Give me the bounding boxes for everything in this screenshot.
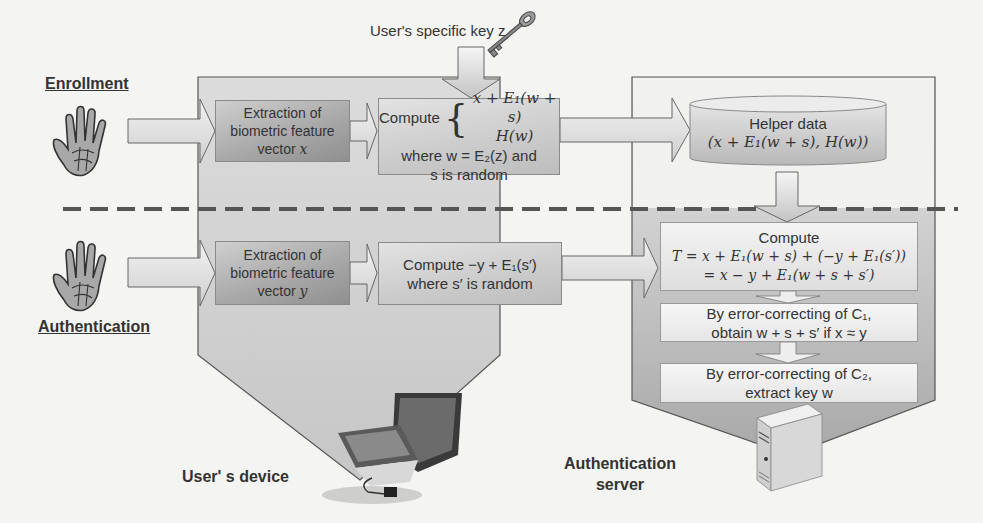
- c1-step-box: By error-correcting of C₁, obtain w + s …: [660, 303, 918, 342]
- enrollment-label: Enrollment: [45, 75, 129, 93]
- c2-step-box: By error-correcting of C₂, extract key w: [660, 363, 918, 403]
- compute-auth-line2: where s′ is random: [407, 274, 532, 293]
- extraction-line2: biometric feature: [230, 264, 334, 282]
- helper-data-label: Helper data (x + E₁(w + s), H(w)): [690, 114, 886, 152]
- compute-box-enroll: Compute { x + E₁(w + s) H(w) where w = E…: [378, 98, 560, 175]
- compute-prefix: Compute: [379, 108, 440, 127]
- helper-data-title: Helper data: [690, 114, 886, 133]
- compute-t-line2: = x − y + E₁(w + s + s′): [704, 266, 875, 285]
- c1-line1: By error-correcting of C₁,: [706, 304, 871, 323]
- server-tower-icon: [757, 404, 822, 491]
- compute-t-title: Compute: [759, 228, 820, 247]
- arrow-hand-to-extraction-enroll: [128, 99, 215, 163]
- compute-random-line: s is random: [430, 165, 508, 184]
- compute-case-2: H(w): [496, 127, 534, 146]
- compute-t-line1: T = x + E₁(w + s) + (−y + E₁(s′)): [672, 247, 906, 266]
- server-caption: Authentication server: [545, 453, 695, 495]
- extraction-line3: vector x: [258, 140, 308, 158]
- compute-case-1: x + E₁(w + s): [470, 89, 559, 127]
- extraction-line1: Extraction of: [244, 104, 322, 122]
- arrow-compute-to-server-auth: [562, 238, 658, 298]
- user-key-label: User's specific key z: [370, 22, 505, 39]
- compute-auth-line1: Compute −y + E₁(s′): [403, 255, 537, 274]
- extraction-box-enroll: Extraction of biometric feature vector x: [215, 100, 350, 162]
- arrow-hand-to-extraction-auth: [128, 240, 215, 306]
- user-device-caption: User' s device: [182, 466, 289, 487]
- compute-where-line: where w = E₂(z) and: [401, 146, 536, 165]
- extraction-box-auth: Extraction of biometric feature vector y: [215, 241, 350, 305]
- c1-line2: obtain w + s + s′ if x ≈ y: [711, 323, 866, 342]
- extraction-line3: vector y: [258, 282, 308, 300]
- hand-icon-auth: [53, 242, 105, 311]
- compute-box-auth: Compute −y + E₁(s′) where s′ is random: [378, 242, 562, 305]
- c2-line1: By error-correcting of C₂,: [706, 364, 872, 383]
- hand-icon-enroll: [53, 107, 105, 176]
- compute-t-box: Compute T = x + E₁(w + s) + (−y + E₁(s′)…: [660, 222, 918, 291]
- helper-data-formula: (x + E₁(w + s), H(w)): [690, 133, 886, 152]
- c2-line2: extract key w: [745, 383, 833, 402]
- extraction-line2: biometric feature: [230, 122, 334, 140]
- compute-cases: Compute { x + E₁(w + s) H(w): [379, 89, 559, 146]
- extraction-line1: Extraction of: [244, 246, 322, 264]
- brace-glyph: {: [444, 99, 468, 137]
- authentication-label: Authentication: [38, 318, 150, 336]
